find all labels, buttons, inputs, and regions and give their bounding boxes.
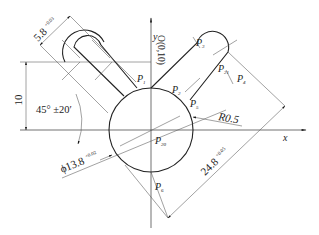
svg-text:P1: P1 bbox=[136, 73, 146, 85]
svg-text:P2: P2 bbox=[171, 84, 181, 96]
radius-label: R0.5 bbox=[217, 110, 241, 126]
point-P21: P21 bbox=[217, 63, 229, 75]
svg-text:P20: P20 bbox=[154, 135, 167, 147]
left-slot bbox=[62, 30, 137, 96]
length-label: 24.8 +0.05 bbox=[198, 145, 231, 177]
point-P1: P1 bbox=[136, 73, 146, 85]
engineering-drawing: 5.8 +0.03 10 45° ±20′ ϕ13.8 +0.02 R0.5 2… bbox=[0, 0, 319, 235]
point-P4: P4 bbox=[236, 73, 246, 85]
svg-text:P4: P4 bbox=[236, 73, 246, 85]
x-axis-label: x bbox=[282, 132, 288, 143]
point-P5: P5 bbox=[189, 98, 199, 110]
point-P3: P3 bbox=[195, 37, 205, 49]
angle-arc bbox=[76, 94, 82, 144]
svg-text:P21: P21 bbox=[217, 63, 229, 75]
svg-text:P6: P6 bbox=[154, 181, 164, 193]
angle-label: 45° ±20′ bbox=[36, 104, 72, 115]
slot-width-label: 5.8 +0.03 bbox=[31, 15, 60, 44]
y-axis-label: y bbox=[152, 31, 158, 42]
point-P2: P2 bbox=[171, 84, 181, 96]
svg-text:P5: P5 bbox=[189, 98, 199, 110]
svg-text:P3: P3 bbox=[195, 37, 205, 49]
length-dimension bbox=[125, 52, 285, 218]
point-P6: P6 bbox=[154, 181, 164, 193]
point-P20: P20 bbox=[154, 135, 167, 147]
height-label: 10 bbox=[12, 94, 24, 106]
